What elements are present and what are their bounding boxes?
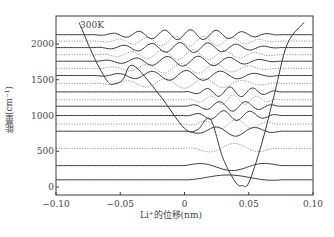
y-tick-label: 1000 bbox=[31, 111, 54, 121]
energy-level-wavefunction bbox=[56, 119, 313, 129]
x-axis-label: Li⁺的位移(nm) bbox=[140, 208, 202, 221]
x-tick-label: 0.10 bbox=[303, 199, 323, 209]
y-tick-label: 0 bbox=[48, 182, 54, 192]
temperature-annotation: 300K bbox=[80, 20, 104, 30]
y-tick-label: 500 bbox=[37, 146, 54, 156]
energy-level-wavefunction bbox=[56, 30, 313, 40]
wavefunction-curves bbox=[56, 30, 313, 180]
y-axis-label: 能量(cm⁻¹) bbox=[4, 86, 18, 133]
energy-level-wavefunction bbox=[56, 143, 313, 152]
y-tick-label: 2000 bbox=[31, 39, 54, 49]
figure-canvas: −0.10−0.0500.050.10 0500100015002000 bbox=[0, 0, 334, 237]
x-tick-label: −0.05 bbox=[106, 199, 134, 209]
energy-level-wavefunction bbox=[56, 163, 313, 170]
energy-level-wavefunction bbox=[56, 71, 313, 81]
y-tick-label: 1500 bbox=[31, 75, 54, 85]
energy-level-wavefunction bbox=[56, 63, 313, 73]
x-tick-label: −0.10 bbox=[42, 199, 70, 209]
energy-level-wavefunction bbox=[56, 102, 313, 112]
energy-level-wavefunction bbox=[56, 175, 313, 180]
x-tick-label: 0.05 bbox=[239, 199, 259, 209]
energy-level-wavefunction bbox=[56, 79, 313, 89]
energy-level-wavefunction bbox=[56, 111, 313, 121]
energy-level-wavefunction bbox=[56, 43, 313, 53]
y-axis-ticks: 0500100015002000 bbox=[31, 39, 59, 192]
